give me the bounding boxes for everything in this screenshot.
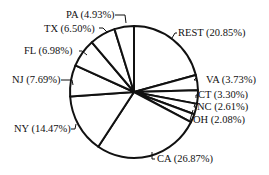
label-ca: CA (26.87%) — [157, 154, 213, 165]
label-nj: NJ (7.69%) — [12, 75, 60, 86]
leader-tx — [99, 28, 107, 32]
label-fl: FL (6.98%) — [24, 46, 73, 57]
leader-ny — [71, 124, 76, 129]
label-oh: OH (2.08%) — [193, 115, 245, 126]
label-va: VA (3.73%) — [206, 75, 256, 86]
leader-rest — [172, 33, 177, 38]
label-ct: CT (3.30%) — [198, 90, 248, 101]
label-tx: TX (6.50%) — [44, 24, 95, 35]
label-pa: PA (4.93%) — [66, 10, 115, 21]
leader-pa — [115, 15, 126, 23]
label-nc: NC (2.61%) — [197, 102, 248, 113]
label-ny: NY (14.47%) — [14, 124, 71, 135]
label-rest: REST (20.85%) — [178, 28, 245, 39]
pie-slices — [70, 26, 198, 158]
